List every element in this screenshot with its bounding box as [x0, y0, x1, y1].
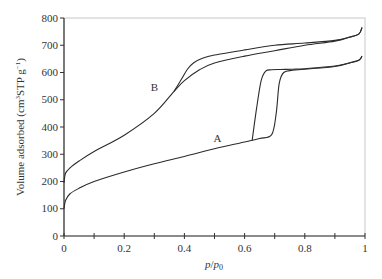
- series-layer: [64, 28, 362, 209]
- y-axis: 0100200300400500600700800: [42, 12, 65, 242]
- plot-frame: [64, 18, 365, 236]
- y-tick-label: 0: [53, 230, 59, 242]
- x-tick-label: 0.2: [117, 242, 131, 254]
- curve-label-b: B: [151, 81, 158, 93]
- y-tick-label: 700: [42, 39, 59, 51]
- y-axis-label: Volume adsorbed (cm3STP g−1): [14, 58, 27, 196]
- curve-label-a: A: [214, 132, 222, 144]
- y-tick-label: 400: [42, 121, 59, 133]
- y-tick-label: 800: [42, 12, 59, 24]
- x-tick-label: 0.8: [298, 242, 312, 254]
- series-b-desorption: [174, 28, 362, 92]
- y-tick-label: 200: [42, 175, 59, 187]
- x-tick-label: 0: [61, 242, 67, 254]
- curve-labels: AB: [151, 81, 222, 143]
- x-tick-label: 1: [362, 242, 368, 254]
- x-tick-label: 0.6: [238, 242, 252, 254]
- isotherm-chart: 0100200300400500600700800 00.20.40.60.81…: [0, 0, 382, 279]
- y-tick-label: 300: [42, 148, 59, 160]
- series-b-adsorption: [64, 28, 362, 183]
- y-tick-label: 500: [42, 93, 59, 105]
- x-axis-label: p/p0: [204, 258, 223, 272]
- y-tick-label: 100: [42, 202, 59, 214]
- x-tick-label: 0.4: [178, 242, 192, 254]
- series-a-desorption: [252, 56, 362, 140]
- y-tick-label: 600: [42, 66, 59, 78]
- plot-border: [64, 18, 365, 236]
- x-axis: 00.20.40.60.81: [61, 233, 368, 254]
